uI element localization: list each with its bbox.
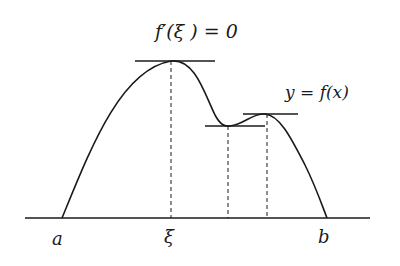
label-tangent-condition: f′(ξ ) = 0 <box>155 20 238 42</box>
label-curve: y = f(x) <box>285 82 349 102</box>
label-a: a <box>52 228 63 249</box>
label-b: b <box>318 226 330 247</box>
label-xi: ξ <box>164 226 174 247</box>
